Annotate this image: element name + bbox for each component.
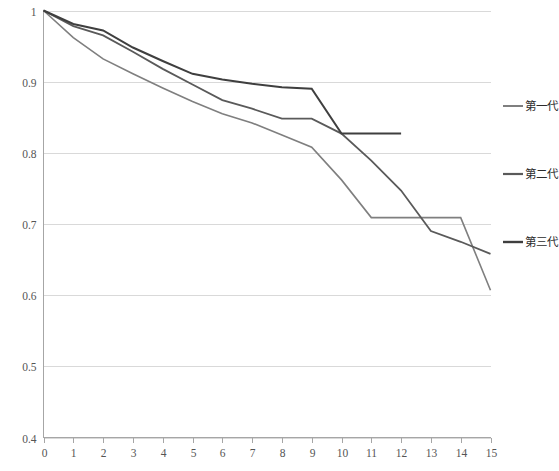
x-tick-label: 2 xyxy=(101,447,107,459)
x-tick-label: 11 xyxy=(366,447,377,459)
legend: 第一代第二代第三代 xyxy=(503,99,559,249)
series-line-1 xyxy=(44,11,491,291)
series-line-3 xyxy=(44,11,402,134)
y-tick-label: 0.9 xyxy=(22,77,37,89)
y-tick-label: 0.6 xyxy=(22,290,37,302)
x-tick-label: 1 xyxy=(71,447,77,459)
legend-label-1: 第一代 xyxy=(525,99,559,113)
x-tick-label: 10 xyxy=(337,447,349,459)
x-tick-label: 4 xyxy=(161,447,167,459)
y-tick-label: 0.4 xyxy=(22,433,37,445)
y-axis-tick-labels: 0.40.50.60.70.80.91 xyxy=(22,6,37,445)
x-tick-label: 8 xyxy=(280,447,286,459)
legend-label-2: 第二代 xyxy=(525,167,559,181)
line-chart: 0.40.50.60.70.80.91 01234567891011121314… xyxy=(0,0,559,471)
x-tick-label: 3 xyxy=(131,447,137,459)
legend-label-3: 第三代 xyxy=(525,235,559,249)
y-tick-label: 0.5 xyxy=(22,361,37,373)
x-tick-label: 13 xyxy=(426,447,438,459)
chart-canvas: 0.40.50.60.70.80.91 01234567891011121314… xyxy=(0,0,559,471)
x-tick-label: 0 xyxy=(42,447,48,459)
gridlines xyxy=(44,12,491,439)
x-tick-label: 7 xyxy=(250,447,256,459)
x-tick-label: 14 xyxy=(456,447,468,459)
x-tick-label: 15 xyxy=(486,447,498,459)
x-tick-label: 6 xyxy=(220,447,226,459)
data-series xyxy=(44,11,491,291)
x-tick-label: 5 xyxy=(191,447,197,459)
x-axis-tick-labels: 0123456789101112131415 xyxy=(42,447,498,459)
y-tick-label: 0.8 xyxy=(22,148,37,160)
x-tick-label: 12 xyxy=(396,447,408,459)
x-tick-label: 9 xyxy=(310,447,316,459)
y-tick-label: 1 xyxy=(31,6,37,18)
y-tick-label: 0.7 xyxy=(22,219,37,231)
